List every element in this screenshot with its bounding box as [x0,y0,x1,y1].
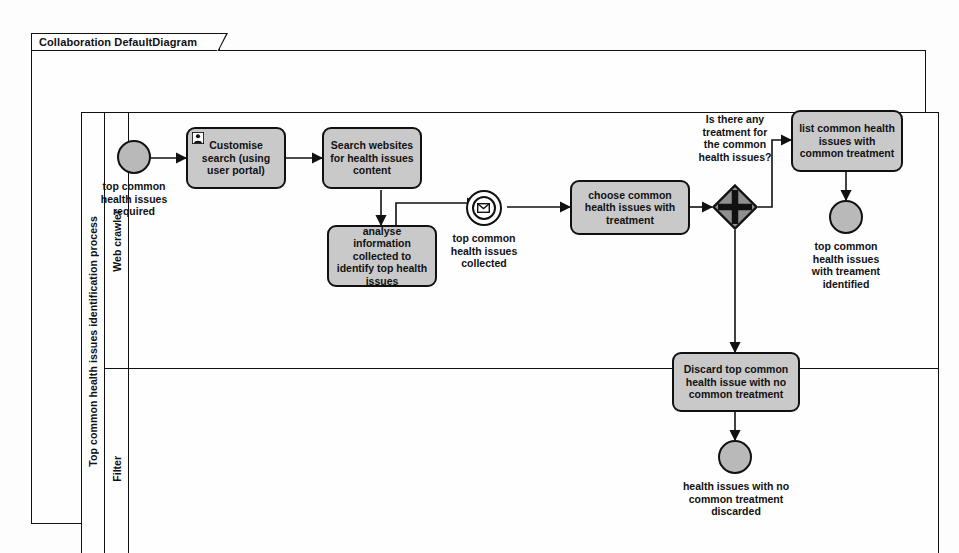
task-search-websites-label: Search websites for health issues conten… [328,139,416,177]
end-event-identified-label: top common health issues with treament i… [785,240,907,290]
task-search-websites[interactable]: Search websites for health issues conten… [322,127,422,189]
start-event-top-common-health-issues-required[interactable] [117,140,151,174]
lane-label-filter: Filter [105,369,129,553]
diagram-canvas: Collaboration DefaultDiagram Top common … [0,0,959,553]
envelope-icon [477,203,490,213]
end-event-discarded-label: health issues with no common treatment d… [665,480,807,518]
end-event-health-issues-discarded[interactable] [718,440,752,474]
task-list-common-label: list common health issues with common tr… [797,122,897,160]
end-event-top-common-health-issues-with-treament-identified[interactable] [829,200,863,234]
task-customise-search[interactable]: Customise search (using user portal) [186,127,286,189]
user-task-icon [192,132,204,144]
lane-label-web-crawler-text: Web crawler [111,210,123,272]
task-analyse-information-label: analyse information collected to identif… [333,225,431,288]
diagram-title-tab[interactable]: Collaboration DefaultDiagram [31,33,220,51]
task-discard-top-common-health-issue[interactable]: Discard top common health issue with no … [672,352,800,412]
task-choose-common-health-issues[interactable]: choose common health issues with treatme… [570,180,690,235]
task-discard-top-label: Discard top common health issue with no … [678,363,794,401]
intermediate-event-inner-ring [472,196,497,221]
complex-gateway-treatment-decision[interactable] [712,184,758,230]
lane-label-filter-text: Filter [111,456,123,482]
gateway-label: Is there any treatment for the common he… [685,113,785,163]
start-event-label: top common health issues required [73,180,195,218]
task-choose-common-label: choose common health issues with treatme… [576,189,684,227]
pool-label: Top common health issues identification … [82,113,105,553]
diagram-title-text: Collaboration DefaultDiagram [39,36,197,48]
intermediate-message-event-collected[interactable] [466,190,502,226]
intermediate-event-label: top common health issues collected [423,232,545,270]
task-list-common-health-issues[interactable]: list common health issues with common tr… [791,110,903,172]
task-customise-search-label: Customise search (using user portal) [192,139,280,177]
lane-filter[interactable]: Filter [105,369,938,553]
pool-label-text: Top common health issues identification … [87,216,99,467]
task-analyse-information[interactable]: analyse information collected to identif… [327,225,437,287]
